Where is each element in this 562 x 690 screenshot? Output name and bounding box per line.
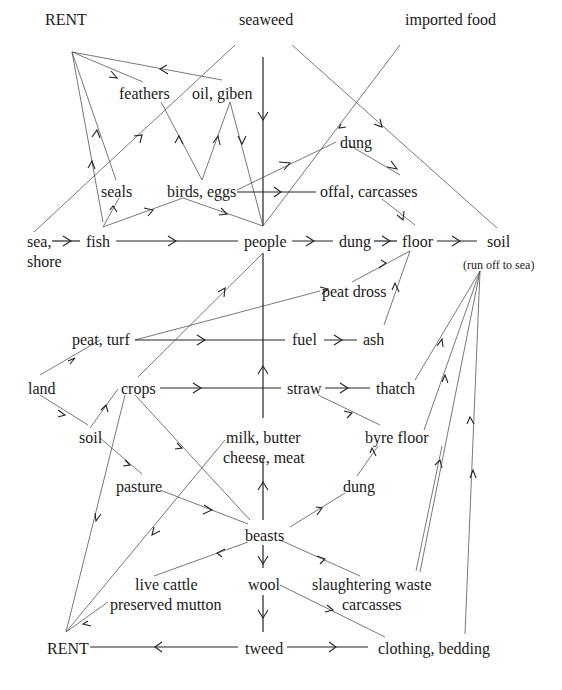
edges-birds (161, 102, 400, 226)
node-peat-dross: peat dross (322, 283, 386, 301)
node-cheese-meat: cheese, meat (223, 449, 305, 467)
node-dung-mid: dung (339, 233, 371, 251)
node-floor: floor (402, 233, 433, 251)
node-offal-carcasses: offal, carcasses (320, 183, 417, 201)
node-feathers: feathers (119, 85, 170, 103)
node-people: people (244, 233, 287, 251)
node-seals: seals (101, 183, 132, 201)
edge-sea-to-seaweed (34, 45, 235, 232)
node-beasts: beasts (245, 527, 284, 545)
node-fish: fish (86, 233, 110, 251)
node-soil-right: soil (487, 233, 510, 251)
node-carcasses-low: carcasses (342, 596, 402, 614)
node-tweed: tweed (245, 640, 283, 658)
node-peat-turf: peat, turf (72, 331, 130, 349)
node-dung-low: dung (343, 478, 375, 496)
node-crops: crops (121, 380, 156, 398)
node-preserved-mutton: preserved mutton (110, 596, 222, 614)
node-run-off: (run off to sea) (463, 256, 534, 274)
node-pasture: pasture (116, 478, 162, 496)
node-shore: shore (27, 253, 62, 271)
node-dung-top: dung (340, 134, 372, 152)
node-imported-food: imported food (405, 11, 496, 29)
node-soil-left: soil (79, 429, 102, 447)
node-rent-bottom: RENT (47, 640, 89, 658)
node-seaweed: seaweed (239, 11, 293, 29)
node-clothing-bedding: clothing, bedding (378, 640, 490, 658)
node-milk-butter: milk, butter (226, 429, 301, 447)
edges-people-chain (292, 199, 477, 246)
node-land: land (28, 380, 56, 398)
node-sea: sea, (27, 233, 51, 251)
node-byre-floor: byre floor (365, 429, 429, 447)
node-fuel: fuel (292, 331, 317, 349)
node-thatch: thatch (376, 380, 415, 398)
node-slaughtering-waste: slaughtering waste (312, 576, 432, 594)
node-rent-top: RENT (45, 11, 87, 29)
node-live-cattle: live cattle (135, 576, 198, 594)
edges-fish (52, 198, 238, 246)
node-ash: ash (363, 331, 384, 349)
node-wool: wool (248, 576, 280, 594)
edge-crops-to-people (138, 253, 263, 377)
edges-fuel (135, 335, 357, 345)
edge-seaweed-to-people (258, 57, 268, 226)
node-straw: straw (287, 380, 322, 398)
node-oil-giben: oil, giben (192, 85, 252, 103)
edge-vertical-people (258, 253, 268, 418)
edges-crops (66, 383, 380, 632)
node-birds-eggs: birds, eggs (167, 183, 236, 201)
